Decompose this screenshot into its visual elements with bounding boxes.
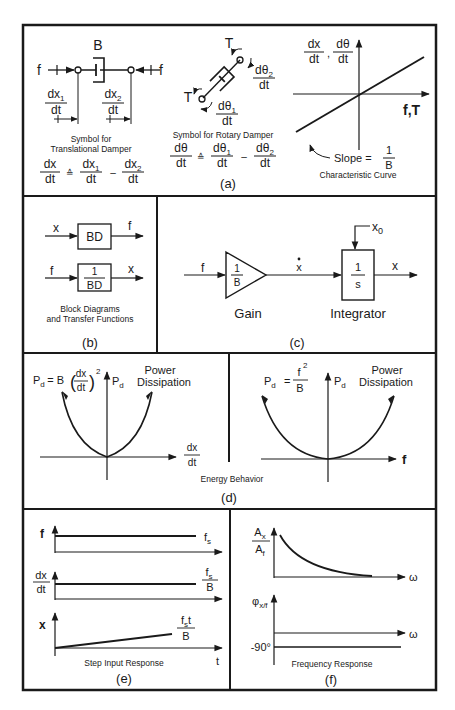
svg-text:f: f [297, 366, 301, 378]
svg-text:2: 2 [96, 367, 101, 376]
svg-text:1: 1 [386, 144, 392, 156]
panel-d-caption: Energy Behavior [201, 474, 264, 484]
translational-caption-1: Symbol for [71, 134, 112, 144]
svg-text:dt: dt [51, 103, 62, 117]
panel-c-label: (c) [289, 335, 304, 350]
torque-bottom-label: T [184, 89, 193, 105]
svg-text:B: B [182, 630, 189, 642]
svg-text:B: B [234, 277, 241, 288]
x-axis-label: f,T [403, 102, 421, 118]
svg-text:=: = [284, 375, 290, 387]
svg-text:dt: dt [188, 457, 197, 468]
power-vs-force-plot: Pd = f 2 B Pd Power Dissipation f [261, 361, 413, 482]
svg-text:Dissipation: Dissipation [137, 376, 191, 388]
panel-e: f fs dx dt fs B x fst B t Step Input Res… [33, 526, 222, 686]
amplitude-curve [280, 535, 372, 576]
panel-b: x BD f f 1 BD x Block Diagrams and Trans… [45, 219, 143, 350]
rotary-velocity-1-fraction: dθ1 dt [216, 99, 238, 128]
svg-text:φx/f: φx/f [252, 595, 268, 610]
svg-text:x: x [128, 262, 134, 276]
svg-text:dt: dt [176, 156, 187, 170]
svg-text:Dissipation: Dissipation [359, 376, 413, 388]
svg-text:dθ2: dθ2 [256, 141, 274, 157]
svg-text:BD: BD [86, 230, 103, 244]
panel-b-caption-1: Block Diagrams [60, 304, 120, 314]
svg-text:dx: dx [308, 37, 321, 51]
svg-text:dθ: dθ [336, 37, 350, 51]
panel-c: f 1 B Gain x 1 s Integrator x0 x (c) [184, 220, 417, 350]
svg-text:Pd: Pd [334, 375, 346, 390]
svg-text:1: 1 [234, 263, 240, 274]
output-x-label: x [392, 259, 398, 273]
damper-b-label: B [93, 37, 102, 53]
svg-text:f: f [50, 264, 54, 278]
svg-text:Ax: Ax [254, 526, 265, 541]
svg-text:Pd = B: Pd = B [33, 374, 64, 389]
dashpot-icon [93, 58, 128, 82]
translational-damper-symbol: B f f dx1 dt dx2 [37, 37, 163, 186]
panel-b-caption-2: and Transfer Functions [47, 314, 134, 324]
svg-text:–: – [110, 167, 116, 178]
force-right-label: f [159, 62, 163, 78]
panel-a-label: (a) [220, 176, 236, 191]
svg-text:dθ: dθ [174, 141, 188, 155]
characteristic-curve-plot: dx dt , dθ dt f,T Slope = 1 B Characteri… [293, 37, 429, 180]
block-inverse-bd: f 1 BD x [45, 262, 143, 291]
svg-text:s: s [355, 278, 361, 290]
panel-f: Ax Af ω φx/f ω -90° Frequency Response (… [251, 526, 418, 687]
svg-text:dt: dt [45, 172, 56, 186]
svg-text:BD: BD [87, 279, 102, 291]
svg-text:dx2: dx2 [104, 87, 122, 103]
panel-d: Pd = B ( dx dt ) 2 Pd Power Dissipation … [33, 361, 413, 505]
svg-text:dθ1: dθ1 [218, 99, 236, 115]
svg-text:ω: ω [409, 628, 418, 640]
panel-f-caption: Frequency Response [292, 659, 373, 669]
svg-text:dx1: dx1 [47, 87, 65, 103]
svg-text:dt: dt [128, 172, 139, 186]
block-bd: x BD f [45, 219, 143, 249]
svg-text:dt: dt [309, 52, 320, 66]
svg-text:fst: fst [181, 614, 191, 629]
svg-text:–: – [241, 151, 247, 162]
integrator-caption: Integrator [330, 306, 386, 321]
velocity-2-fraction: dx2 dt [102, 87, 124, 117]
svg-text:x: x [39, 618, 46, 632]
svg-text:≙: ≙ [197, 152, 205, 162]
svg-text:1: 1 [355, 261, 361, 273]
svg-text:dt: dt [260, 156, 271, 170]
gain-caption: Gain [234, 306, 261, 321]
svg-text:dx: dx [187, 442, 198, 453]
svg-text:dt: dt [259, 78, 270, 92]
translational-equation: dx dt ≙ dx1 dt – dx2 dt [40, 157, 144, 186]
minus-90-label: -90° [251, 641, 271, 653]
svg-text:Af: Af [255, 543, 265, 558]
svg-text:dt: dt [217, 156, 228, 170]
svg-text:fs: fs [204, 531, 211, 546]
svg-text:dx2: dx2 [124, 157, 142, 173]
svg-text:dθ1: dθ1 [213, 141, 231, 157]
svg-text:B: B [296, 382, 303, 394]
svg-text:Power: Power [371, 364, 403, 376]
initial-condition-label: x0 [372, 220, 383, 236]
panel-b-label: (b) [82, 335, 98, 350]
panel-e-label: (e) [116, 671, 132, 686]
svg-text:dt: dt [108, 103, 119, 117]
svg-text:Pd: Pd [264, 375, 276, 390]
power-vs-velocity-plot: Pd = B ( dx dt ) 2 Pd Power Dissipation … [33, 364, 200, 480]
force-left-label: f [37, 62, 41, 78]
panel-e-caption: Step Input Response [84, 658, 164, 668]
panel-a: B f f dx1 dt dx2 [37, 35, 429, 191]
rotary-velocity-2-fraction: dθ2 dt [253, 63, 275, 92]
svg-text:dx: dx [44, 157, 57, 171]
svg-text:fs: fs [205, 566, 212, 581]
svg-text:Pd: Pd [112, 375, 124, 390]
rotary-caption: Symbol for Rotary Damper [173, 130, 274, 140]
rotary-damper-symbol: T T dθ2 dt dθ1 dt Symbol for [170, 35, 276, 191]
svg-text:dt: dt [86, 172, 97, 186]
svg-text:dt: dt [77, 382, 86, 393]
characteristic-caption: Characteristic Curve [320, 170, 397, 180]
translational-caption-2: Translational Damper [51, 144, 132, 154]
svg-text:B: B [206, 581, 213, 593]
svg-text:t: t [216, 655, 219, 667]
panel-f-label: (f) [325, 672, 337, 687]
